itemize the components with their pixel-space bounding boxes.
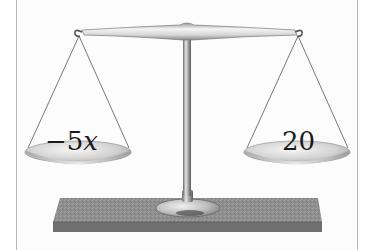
left-pan-sign: − bbox=[45, 126, 67, 156]
scale-beam bbox=[75, 23, 302, 40]
left-pan-expression: −5x bbox=[45, 128, 98, 154]
right-pan-value: 20 bbox=[282, 128, 315, 154]
left-pan-coefficient: 5 bbox=[67, 126, 84, 156]
scale-post bbox=[183, 38, 191, 196]
left-pan-variable: x bbox=[83, 126, 98, 156]
